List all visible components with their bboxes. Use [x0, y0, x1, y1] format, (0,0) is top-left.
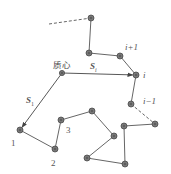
- bond: [131, 75, 136, 104]
- node-core: [86, 157, 88, 159]
- node-core: [119, 55, 121, 57]
- dashed-bond: [49, 18, 91, 24]
- bond: [55, 120, 61, 149]
- node-core: [54, 148, 56, 150]
- bond: [87, 136, 114, 158]
- bond: [89, 18, 91, 53]
- dashed-bond: [131, 104, 155, 124]
- bond: [124, 124, 155, 126]
- center-of-mass-label: 质心: [53, 61, 71, 70]
- vector-si-label: Si: [90, 62, 97, 73]
- node-i-plus-1-label: i+1: [125, 43, 138, 52]
- node-core: [123, 125, 125, 127]
- node-core: [130, 103, 132, 105]
- node-core: [113, 135, 115, 137]
- node-core: [154, 123, 156, 125]
- bond: [20, 130, 55, 149]
- bond: [124, 126, 125, 164]
- bond: [92, 111, 114, 136]
- node-i-minus-1-label: i−1: [143, 97, 156, 106]
- node-core: [124, 163, 126, 165]
- node-i-label: i: [143, 71, 146, 80]
- node-core: [19, 129, 21, 131]
- node-core: [88, 52, 90, 54]
- position-vectors: [22, 73, 132, 127]
- diagram-canvas: [0, 0, 171, 174]
- node-core: [135, 74, 137, 76]
- node-2-label: 2: [51, 159, 56, 168]
- chain-nodes: [17, 15, 158, 167]
- node-core: [90, 17, 92, 19]
- vector-s1-label: S1: [26, 96, 34, 107]
- node-1-label: 1: [11, 139, 16, 148]
- polymer-chain-diagram: 质心 Si S1 i+1 i i−1 1 2 3: [0, 0, 171, 174]
- bond: [89, 53, 120, 56]
- dashed-bonds: [49, 18, 155, 124]
- solid-bonds: [20, 18, 155, 164]
- bond: [87, 158, 125, 164]
- node-core: [91, 110, 93, 112]
- bond: [61, 111, 92, 120]
- vector-s-i: [62, 73, 133, 75]
- node-3-label: 3: [66, 126, 71, 135]
- node-core: [61, 72, 63, 74]
- bond: [120, 56, 136, 75]
- node-core: [60, 119, 62, 121]
